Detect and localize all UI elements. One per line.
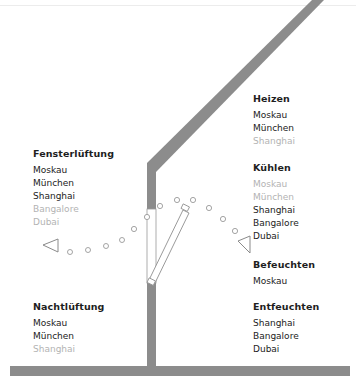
city-item-inactive: Dubai <box>33 216 114 229</box>
floor <box>10 366 350 376</box>
city-item-inactive: Shanghai <box>33 343 105 356</box>
group-title: Heizen <box>253 92 295 105</box>
city-item: München <box>253 122 295 135</box>
city-item-inactive: Bangalore <box>33 203 114 216</box>
group-title: Befeuchten <box>253 258 315 271</box>
city-item-inactive: Moskau <box>253 178 299 191</box>
city-item: Bangalore <box>253 330 319 343</box>
airflow-arrow-left-icon <box>43 239 58 252</box>
group-befeuchten: Befeuchten Moskau <box>253 258 315 288</box>
group-nachtlueftung: Nachtlüftung Moskau München Shanghai <box>33 300 105 356</box>
group-title: Entfeuchten <box>253 300 319 313</box>
city-item: Moskau <box>253 109 295 122</box>
airflow-arrow-right-icon <box>238 236 250 253</box>
city-item: Dubai <box>253 343 319 356</box>
wall-lower <box>147 283 156 371</box>
group-kuehlen: Kühlen Moskau München Shanghai Bangalore… <box>253 161 299 243</box>
group-title: Nachtlüftung <box>33 300 105 313</box>
group-fensterlueftung: Fensterlüftung Moskau München Shanghai B… <box>33 147 114 229</box>
city-item: Shanghai <box>253 204 299 217</box>
city-item: München <box>33 177 114 190</box>
city-item: Shanghai <box>33 190 114 203</box>
city-item: Moskau <box>253 275 315 288</box>
city-item: Dubai <box>253 230 299 243</box>
city-item: Moskau <box>33 164 114 177</box>
city-item: Bangalore <box>253 217 299 230</box>
group-heizen: Heizen Moskau München Shanghai <box>253 92 295 148</box>
city-item-inactive: Shanghai <box>253 135 295 148</box>
group-title: Fensterlüftung <box>33 147 114 160</box>
city-item: München <box>33 330 105 343</box>
city-item: Moskau <box>33 317 105 330</box>
group-title: Kühlen <box>253 161 299 174</box>
city-item: Shanghai <box>253 317 319 330</box>
wall-upper <box>147 163 156 209</box>
roof <box>147 0 324 172</box>
city-item-inactive: München <box>253 191 299 204</box>
group-entfeuchten: Entfeuchten Shanghai Bangalore Dubai <box>253 300 319 356</box>
